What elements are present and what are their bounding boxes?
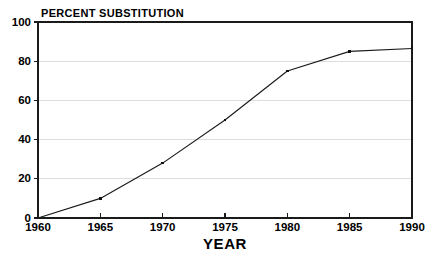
x-axis-tick-labels: 1960196519701975198019851990 — [25, 221, 425, 233]
y-tick-label-100: 100 — [12, 16, 31, 28]
x-tick-label-1975: 1975 — [212, 221, 238, 233]
data-point-1975 — [224, 119, 227, 122]
x-tick-label-1960: 1960 — [25, 221, 51, 233]
y-tick-label-80: 80 — [18, 55, 31, 67]
chart-container: 020406080100 196019651970197519801985199… — [0, 0, 434, 260]
x-axis-title: YEAR — [203, 235, 247, 252]
y-tick-label-20: 20 — [18, 172, 31, 184]
line-chart: 020406080100 196019651970197519801985199… — [0, 0, 434, 260]
x-tick-label-1970: 1970 — [150, 221, 176, 233]
y-axis-tick-labels: 020406080100 — [12, 16, 31, 224]
y-tick-label-40: 40 — [18, 133, 31, 145]
x-tick-label-1965: 1965 — [88, 221, 114, 233]
x-tick-label-1985: 1985 — [337, 221, 363, 233]
data-point-1990 — [411, 47, 414, 50]
data-point-1980 — [286, 70, 289, 73]
x-tick-label-1990: 1990 — [399, 221, 425, 233]
x-tick-label-1980: 1980 — [275, 221, 301, 233]
y-tick-label-60: 60 — [18, 94, 31, 106]
chart-title: PERCENT SUBSTITUTION — [41, 7, 184, 19]
data-point-1965 — [99, 197, 102, 200]
data-point-1985 — [348, 50, 351, 53]
data-point-1970 — [161, 162, 164, 165]
